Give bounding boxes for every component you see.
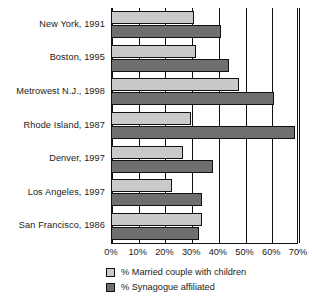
bar-married — [111, 146, 183, 159]
bar-synagogue — [111, 92, 274, 105]
legend-swatch-icon — [106, 268, 115, 277]
category-label: Los Angeles, 1997 — [0, 187, 105, 198]
bar-synagogue — [111, 25, 221, 38]
x-tick-label: 10% — [129, 246, 147, 258]
legend-swatch-icon — [106, 283, 115, 292]
category-label: Denver, 1997 — [0, 153, 105, 164]
x-tick-label: 60% — [262, 246, 280, 258]
x-tick-label: 70% — [289, 246, 307, 258]
chart-legend: % Married couple with children% Synagogu… — [106, 266, 312, 296]
bar-chart: New York, 1991Boston, 1995Metrowest N.J.… — [0, 0, 312, 300]
bar-synagogue — [111, 126, 295, 139]
x-tick-label: 0% — [104, 246, 117, 258]
category-label: New York, 1991 — [0, 19, 105, 30]
legend-item: % Synagogue affiliated — [106, 281, 312, 294]
bar-synagogue — [111, 59, 229, 72]
x-tick-label: 20% — [155, 246, 173, 258]
bar-synagogue — [111, 160, 213, 173]
bar-married — [111, 78, 239, 91]
legend-label: % Synagogue affiliated — [121, 282, 215, 293]
legend-item: % Married couple with children — [106, 266, 312, 279]
category-label: Boston, 1995 — [0, 52, 105, 63]
category-label: San Francisco, 1986 — [0, 220, 105, 231]
x-axis-tick-labels: 0%10%20%30%40%50%60%70% — [0, 246, 312, 262]
bar-synagogue — [111, 193, 202, 206]
category-label: Rhode Island, 1987 — [0, 120, 105, 131]
bar-married — [111, 179, 172, 192]
bar-married — [111, 45, 196, 58]
bar-married — [111, 112, 191, 125]
x-tick-label: 50% — [235, 246, 253, 258]
bar-synagogue — [111, 227, 199, 240]
category-axis-labels: New York, 1991Boston, 1995Metrowest N.J.… — [0, 8, 105, 243]
legend-label: % Married couple with children — [121, 267, 246, 278]
category-label: Metrowest N.J., 1998 — [0, 86, 105, 97]
bar-married — [111, 11, 194, 24]
x-tick-label: 40% — [209, 246, 227, 258]
bar-married — [111, 213, 202, 226]
x-tick-label: 30% — [182, 246, 200, 258]
